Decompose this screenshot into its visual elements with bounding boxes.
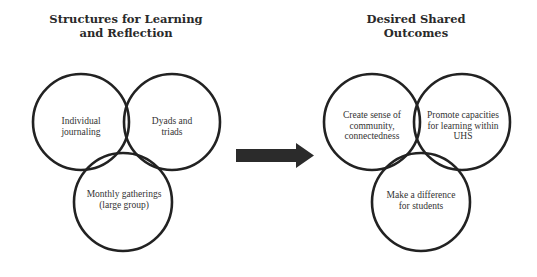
label-community: Create sense of community, connectedness — [330, 110, 414, 142]
left-panel-title: Structures for Learning and Reflection — [46, 12, 206, 40]
venn-diagram-figure: Structures for Learning and Reflection D… — [0, 0, 537, 277]
left-venn — [33, 74, 220, 251]
right-arrow-icon — [236, 143, 314, 168]
label-individual-journaling: Individual journaling — [46, 116, 116, 137]
label-capacities: Promote capacities for learning within U… — [418, 110, 508, 142]
label-dyads-triads: Dyads and triads — [137, 116, 207, 137]
right-panel-title: Desired Shared Outcomes — [336, 12, 496, 40]
label-difference-students: Make a difference for students — [376, 190, 466, 211]
right-venn — [324, 74, 510, 251]
label-monthly-gatherings: Monthly gatherings (large group) — [78, 189, 170, 210]
